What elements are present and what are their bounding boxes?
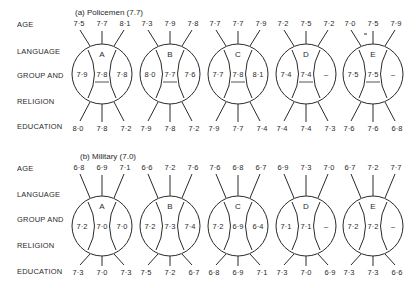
group-a-policemen-lang-value-3: 7·8: [117, 70, 128, 79]
group-c-military-age-spoke-left: [216, 174, 226, 198]
group-b-military-age-value-3: 7·6: [188, 163, 199, 172]
group-b-policemen-lang-value-2: 7·7: [165, 70, 176, 79]
group-e-military-lang-value-2: 7·2: [368, 222, 379, 231]
group-b-military-label: B: [167, 202, 172, 211]
group-d-policemen-edu-value-3: 7·3: [325, 124, 336, 133]
group-b-military-age-value-2: 7·2: [165, 163, 176, 172]
group-d-military-age-spoke-right: [318, 174, 328, 198]
group-a-military-left-arc: [88, 202, 95, 250]
group-c-policemen-lang-value-1: 7·7: [213, 70, 224, 79]
group-c-policemen-age-value-3: 7·9: [256, 19, 267, 28]
group-e-policemen-age-spoke-right: [385, 30, 395, 46]
group-d-policemen-age-value-3: 7·2: [324, 19, 335, 28]
group-a-military-age-value-3: 7·1: [120, 163, 131, 172]
group-b-policemen-edu-spoke-left: [148, 102, 158, 121]
group-e-military-age-value-3: 7·7: [391, 163, 402, 172]
group-c-military-edu-spoke-left: [216, 254, 226, 265]
group-d-policemen-age-spoke-right: [318, 30, 328, 46]
group-e-policemen-right-arc: [381, 50, 388, 98]
group-e-military-left-arc: [359, 202, 366, 250]
group-c-policemen-lang-value-2: 7·8: [233, 70, 244, 79]
group-b-military-age-spoke-left: [148, 174, 158, 198]
group-a-policemen-edu-value-1: 8·0: [73, 124, 84, 133]
group-b-military-age-spoke-right: [182, 174, 192, 198]
group-a-military-lang-value-3: 7·0: [117, 222, 128, 231]
group-d-military-edu-value-3: 6·9: [325, 268, 336, 277]
group-a-military-right-arc: [110, 202, 117, 250]
group-d-military-age-value-1: 6·9: [278, 163, 289, 172]
group-e-military-right-arc: [381, 202, 388, 250]
group-e-military-age-value-2: 7·2: [368, 163, 379, 172]
group-a-policemen-age-value-3: 8·1: [120, 19, 131, 28]
group-e-military-edu-value-1: 7·3: [344, 268, 355, 277]
group-c-policemen-edu-value-2: 7·7: [233, 124, 244, 133]
group-c-military-lang-value-1: 7·2: [213, 222, 224, 231]
group-e-policemen-edu-value-3: 6·8: [392, 124, 403, 133]
group-c-military-lang-value-2: 6·9: [233, 222, 244, 231]
group-b-military-lang-value-3: 7·4: [185, 222, 196, 231]
group-a-policemen-label: A: [99, 50, 105, 59]
group-d-military-right-arc: [314, 202, 321, 250]
group-e-policemen-edu-spoke-right: [385, 102, 395, 121]
group-b-military-edu-value-1: 7·5: [141, 268, 152, 277]
group-e-military-edu-value-2: 7·3: [368, 268, 379, 277]
group-a-military-age-value-2: 6·9: [97, 163, 108, 172]
group-c-policemen-edu-spoke-right: [250, 102, 260, 121]
group-a-military-label: A: [99, 202, 105, 211]
group-e-policemen-left-arc: [359, 50, 366, 98]
group-b-military-right-arc: [178, 202, 185, 250]
group-c-military-left-arc: [224, 202, 231, 250]
group-c-military-edu-value-2: 6·9: [233, 268, 244, 277]
group-c-military-edu-value-3: 7·1: [257, 268, 268, 277]
group-e-military-label: E: [370, 202, 375, 211]
group-c-policemen-lang-value-3: 8·1: [253, 70, 264, 79]
group-b-military-edu-value-2: 7·2: [165, 268, 176, 277]
group-e-policemen-age-spoke-left: [351, 30, 361, 46]
group-e-military-age-value-1: 6·7: [345, 163, 356, 172]
group-a-policemen-edu-spoke-right: [114, 102, 124, 121]
group-d-policemen-right-arc: [314, 50, 321, 98]
group-d-policemen-age-spoke-left: [284, 30, 294, 46]
group-d-military-left-arc: [292, 202, 299, 250]
group-a-policemen-right-arc: [110, 50, 117, 98]
group-c-policemen-label: C: [235, 50, 241, 59]
group-b-military-edu-spoke-right: [182, 254, 192, 265]
group-d-military-edu-value-1: 7·3: [277, 268, 288, 277]
group-b-military-edu-spoke-left: [148, 254, 158, 265]
group-b-policemen-edu-value-1: 7·9: [141, 124, 152, 133]
group-a-military-edu-spoke-left: [80, 254, 90, 265]
group-e-military-edu-spoke-right: [385, 254, 395, 265]
group-e-policemen-edu-value-1: 7·6: [344, 124, 355, 133]
group-b-policemen-lang-value-3: 7·6: [185, 70, 196, 79]
group-e-military-lang-value-1: 7·2: [348, 222, 359, 231]
group-b-policemen-lang-value-1: 8·0: [145, 70, 156, 79]
group-e-policemen-lang-value-3: –: [391, 70, 396, 79]
group-d-military-lang-value-2: 7·1: [301, 222, 312, 231]
group-b-policemen-label: B: [167, 50, 172, 59]
group-d-military-age-value-2: 7·3: [301, 163, 312, 172]
group-a-policemen-left-arc: [88, 50, 95, 98]
group-b-policemen-left-arc: [156, 50, 163, 98]
group-a-policemen-edu-value-3: 7·2: [121, 124, 132, 133]
group-a-policemen-age-spoke-left: [80, 30, 90, 46]
group-c-military-age-value-2: 6·8: [233, 163, 244, 172]
group-c-military-label: C: [235, 202, 241, 211]
group-a-military-age-spoke-left: [80, 174, 90, 198]
group-d-military-edu-value-2: 7·0: [301, 268, 312, 277]
group-d-military-edu-spoke-left: [284, 254, 294, 265]
group-d-policemen-age-value-2: 7·5: [301, 19, 312, 28]
group-d-military-edu-spoke-right: [318, 254, 328, 265]
group-b-military-left-arc: [156, 202, 163, 250]
group-d-military-age-spoke-left: [284, 174, 294, 198]
group-c-military-edu-spoke-right: [250, 254, 260, 265]
group-d-military-label: D: [303, 202, 309, 211]
group-d-policemen-lang-value-3: –: [324, 70, 329, 79]
group-e-policemen-label: E: [370, 50, 375, 59]
group-c-policemen-age-spoke-right: [250, 30, 260, 46]
group-b-military-lang-value-1: 7·2: [145, 222, 156, 231]
group-c-military-right-arc: [246, 202, 253, 250]
group-a-military-age-spoke-right: [114, 174, 124, 198]
group-c-military-age-value-3: 6·7: [256, 163, 267, 172]
group-c-military-edu-value-1: 6·8: [209, 268, 220, 277]
group-c-policemen-edu-spoke-left: [216, 102, 226, 121]
